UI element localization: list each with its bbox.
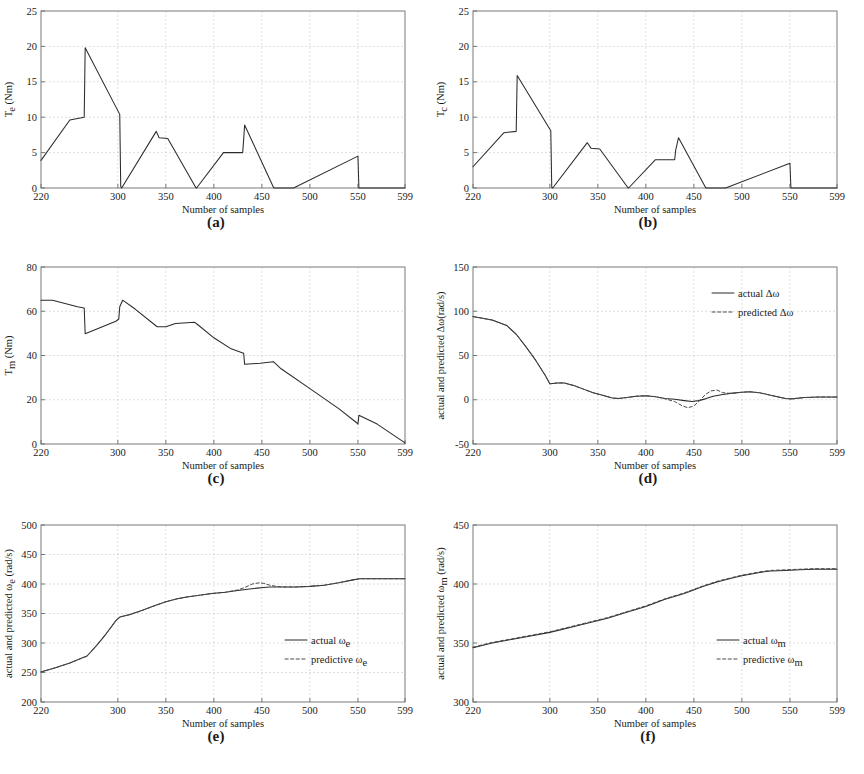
svg-text:actual and predicted ωm (rad/s: actual and predicted ωm (rad/s)	[435, 547, 449, 680]
data-series-actual	[41, 48, 405, 188]
y-tick-label: 300	[21, 638, 37, 649]
x-tick-label: 350	[590, 447, 606, 458]
x-tick-label: 500	[734, 447, 750, 458]
x-tick-label: 599	[397, 447, 413, 458]
x-tick-label: 599	[829, 191, 845, 202]
plot-area-e: 2203003504004505005505992002503003504004…	[0, 514, 432, 729]
x-tick-label: 400	[638, 447, 654, 458]
panel-caption: (c)	[0, 470, 432, 487]
chart-legend: actual ωepredictive ωe	[285, 635, 368, 668]
plot-area-c: 220300350400450500550599020406080Number …	[0, 256, 432, 471]
y-tick-label: 5	[32, 147, 37, 158]
x-tick-label: 550	[782, 705, 798, 716]
x-tick-label: 550	[782, 447, 798, 458]
y-tick-label: 500	[21, 520, 37, 531]
x-tick-label: 300	[542, 191, 558, 202]
figure-panel-grid: 2203003504004505005505990510152025Number…	[0, 0, 864, 774]
panel-caption: (f)	[432, 728, 864, 745]
x-tick-label: 350	[158, 191, 174, 202]
data-series-actual	[473, 75, 837, 188]
x-tick-label: 300	[542, 447, 558, 458]
y-tick-label: 0	[464, 183, 469, 194]
y-tick-label: 200	[21, 697, 37, 708]
y-tick-label: 80	[27, 262, 38, 273]
x-tick-label: 350	[158, 705, 174, 716]
plot-area-d: 220300350400450500550599-50050100150Numb…	[432, 256, 864, 471]
y-tick-label: 20	[459, 41, 470, 52]
plot-box	[473, 11, 837, 188]
data-series-actual	[473, 317, 837, 402]
plot-box	[473, 525, 837, 702]
x-tick-label: 400	[638, 191, 654, 202]
y-axis-title: Tc (Nm)	[435, 81, 449, 117]
svg-text:actual and predicted Δω(rad/s): actual and predicted Δω(rad/s)	[435, 291, 447, 420]
y-tick-label: 15	[27, 76, 38, 87]
plot-area-b: 2203003504004505005505990510152025Number…	[432, 0, 864, 215]
y-tick-label: 150	[453, 262, 469, 273]
legend-label: actual ωe	[311, 635, 351, 649]
chart-panel-e: 2203003504004505005505992002503003504004…	[0, 514, 432, 772]
data-series-actual	[41, 300, 405, 443]
x-tick-label: 500	[302, 191, 318, 202]
legend-label: predicted Δω	[738, 307, 793, 318]
y-tick-label: 450	[453, 520, 469, 531]
panel-caption: (e)	[0, 728, 432, 745]
y-tick-label: 10	[27, 112, 38, 123]
chart-panel-f: 220300350400450500550599300350400450Numb…	[432, 514, 864, 772]
panel-caption: (a)	[0, 214, 432, 231]
panel-caption: (d)	[432, 470, 864, 487]
x-tick-label: 450	[254, 447, 270, 458]
svg-text:Tm (Nm): Tm (Nm)	[3, 335, 17, 375]
x-tick-label: 300	[110, 191, 126, 202]
y-axis-title: Te (Nm)	[3, 81, 17, 117]
y-tick-label: 0	[32, 439, 37, 450]
x-tick-label: 550	[350, 447, 366, 458]
y-tick-label: 250	[21, 667, 37, 678]
y-tick-label: 40	[27, 350, 38, 361]
x-tick-label: 500	[734, 191, 750, 202]
y-tick-label: 25	[27, 6, 38, 17]
legend-label: actual Δω	[738, 288, 779, 299]
chart-panel-c: 220300350400450500550599020406080Number …	[0, 256, 432, 514]
y-tick-label: 0	[32, 183, 37, 194]
y-tick-label: 20	[27, 41, 38, 52]
y-tick-label: 300	[453, 697, 469, 708]
chart-legend: actual Δωpredicted Δω	[712, 288, 793, 318]
x-tick-label: 450	[686, 191, 702, 202]
chart-panel-d: 220300350400450500550599-50050100150Numb…	[432, 256, 864, 514]
x-tick-label: 350	[158, 447, 174, 458]
y-tick-label: 100	[453, 306, 469, 317]
svg-text:actual and predicted ωe (rad/s: actual and predicted ωe (rad/s)	[3, 549, 17, 678]
y-tick-label: 20	[27, 394, 38, 405]
legend-label: predictive ωm	[743, 654, 803, 668]
y-tick-label: 60	[27, 306, 38, 317]
plot-area-a: 2203003504004505005505990510152025Number…	[0, 0, 432, 215]
chart-panel-b: 2203003504004505005505990510152025Number…	[432, 0, 864, 258]
x-tick-label: 400	[638, 705, 654, 716]
svg-text:Tc (Nm): Tc (Nm)	[435, 81, 449, 117]
x-tick-label: 500	[302, 705, 318, 716]
chart-panel-a: 2203003504004505005505990510152025Number…	[0, 0, 432, 258]
x-tick-label: 550	[350, 191, 366, 202]
y-tick-label: 25	[459, 6, 470, 17]
plot-box	[41, 11, 405, 188]
x-tick-label: 599	[397, 705, 413, 716]
y-tick-label: 400	[453, 579, 469, 590]
x-tick-label: 400	[206, 447, 222, 458]
y-tick-label: 10	[459, 112, 470, 123]
x-tick-label: 450	[254, 705, 270, 716]
plot-area-f: 220300350400450500550599300350400450Numb…	[432, 514, 864, 729]
data-series-predicted	[473, 317, 837, 408]
y-tick-label: 15	[459, 76, 470, 87]
x-tick-label: 450	[686, 447, 702, 458]
y-tick-label: 5	[464, 147, 469, 158]
x-tick-label: 450	[254, 191, 270, 202]
y-tick-label: -50	[455, 439, 469, 450]
x-tick-label: 550	[350, 705, 366, 716]
x-tick-label: 300	[542, 705, 558, 716]
x-tick-label: 500	[734, 705, 750, 716]
y-axis-title: actual and predicted ωe (rad/s)	[3, 549, 17, 678]
x-tick-label: 300	[110, 447, 126, 458]
x-tick-label: 500	[302, 447, 318, 458]
y-tick-label: 50	[459, 350, 470, 361]
